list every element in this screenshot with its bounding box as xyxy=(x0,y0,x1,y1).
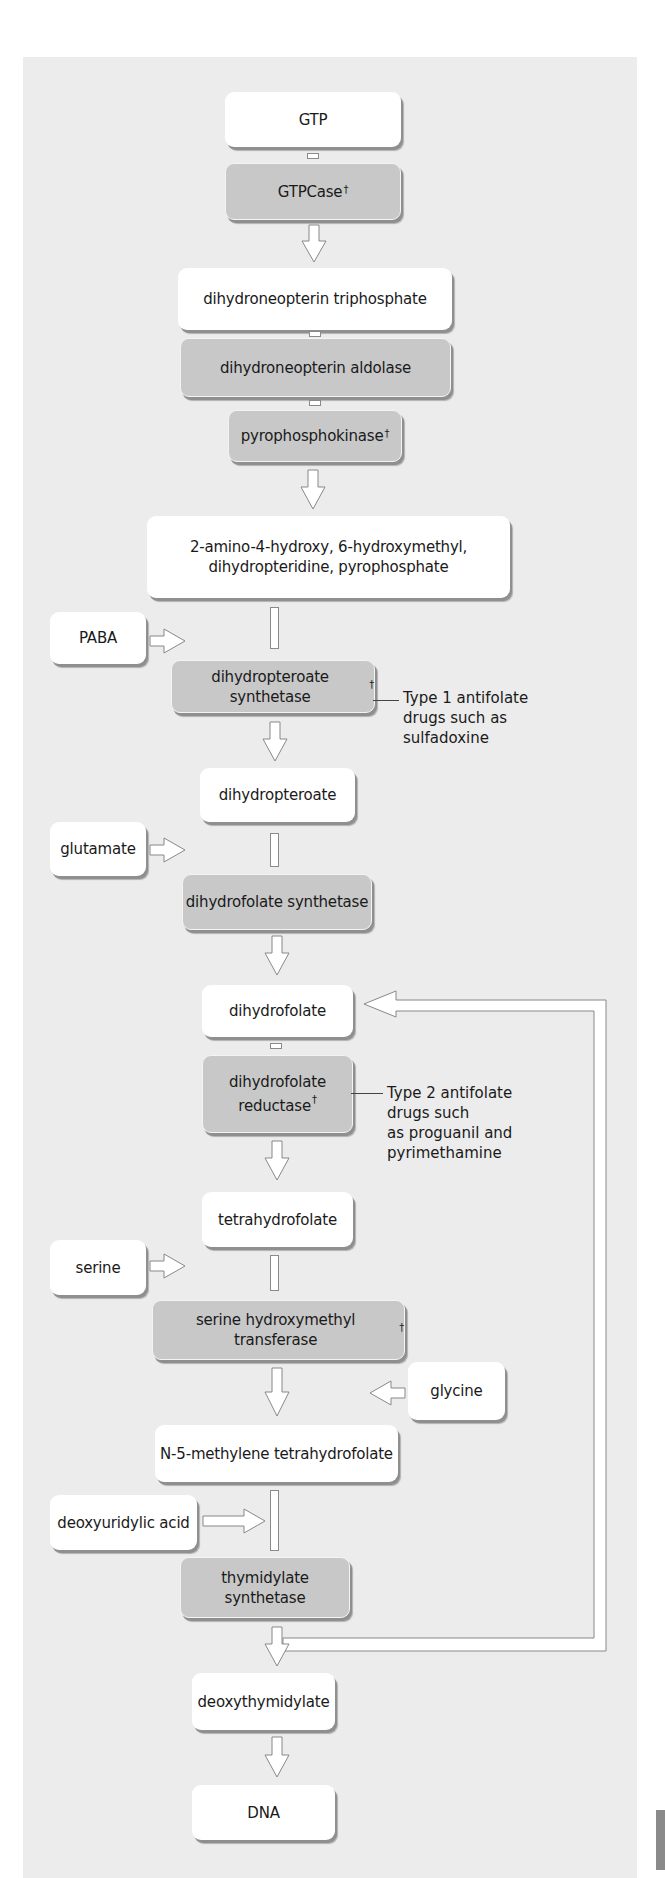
node-label: dihydroneopterin triphosphate xyxy=(203,289,427,309)
arrow-down-icon xyxy=(264,1737,290,1778)
node-label: deoxythymidylate xyxy=(198,1692,330,1712)
connector-bar xyxy=(270,1255,279,1291)
node-label-line1: 2-amino-4-hydroxy, 6-hydroxymethyl, xyxy=(190,537,467,557)
node-label: dihydroneopterin aldolase xyxy=(220,358,411,378)
input-label: glutamate xyxy=(60,839,135,859)
arrow-down-icon xyxy=(300,470,326,510)
arrow-down-icon xyxy=(264,1627,290,1667)
node-dna: DNA xyxy=(192,1785,335,1840)
dagger-mark: † xyxy=(385,424,390,444)
input-paba: PABA xyxy=(50,612,146,664)
node-gtpcase: GTPCase† xyxy=(225,163,401,220)
page-edge-tab xyxy=(656,1810,665,1870)
dagger-mark: † xyxy=(369,675,374,695)
arrow-right-icon xyxy=(150,628,186,654)
node-label-line2: dihydropteridine, pyrophosphate xyxy=(208,557,448,577)
input-deoxyuridylic-acid: deoxyuridylic acid xyxy=(50,1495,197,1550)
dagger-mark: † xyxy=(343,180,348,200)
input-glutamate: glutamate xyxy=(50,822,146,876)
connector-bar xyxy=(270,607,279,649)
arrow-down-icon xyxy=(262,722,288,762)
node-pyrophosphokinase: pyrophosphokinase† xyxy=(228,410,402,462)
node-dihydrofolate-synthetase: dihydrofolate synthetase xyxy=(182,874,372,930)
arrow-right-icon xyxy=(150,1253,186,1279)
node-gtpcase-label: GTPCase xyxy=(278,182,343,202)
input-label: deoxyuridylic acid xyxy=(57,1513,189,1533)
arrow-down-icon xyxy=(301,225,327,263)
input-label: serine xyxy=(76,1258,121,1278)
connector xyxy=(307,153,319,159)
arrow-right-icon xyxy=(150,837,186,863)
node-gtp-label: GTP xyxy=(299,110,328,130)
feedback-loop-arrow-icon xyxy=(280,990,610,1655)
node-gtp: GTP xyxy=(225,92,401,147)
node-label: DNA xyxy=(247,1803,279,1823)
annotation-pointer xyxy=(373,700,399,701)
annotation-line: sulfadoxine xyxy=(403,728,528,748)
node-hydroxymethyl-dihydropteridine-pyrophosphate: 2-amino-4-hydroxy, 6-hydroxymethyl, dihy… xyxy=(147,516,510,598)
annotation-line: Type 1 antifolate xyxy=(403,688,528,708)
node-label: dihydropteroate xyxy=(219,785,337,805)
node-label: dihydropteroate synthetase xyxy=(172,667,368,707)
node-label: pyrophosphokinase xyxy=(241,426,384,446)
node-deoxythymidylate: deoxythymidylate xyxy=(192,1673,335,1730)
connector-bar xyxy=(270,833,279,867)
input-label: PABA xyxy=(79,628,117,648)
node-dihydropteroate-synthetase: dihydropteroate synthetase† xyxy=(171,660,375,713)
node-dihydropteroate: dihydropteroate xyxy=(200,768,355,822)
input-serine: serine xyxy=(50,1240,146,1295)
node-label: dihydrofolate synthetase xyxy=(186,892,368,912)
node-dihydroneopterin-aldolase: dihydroneopterin aldolase xyxy=(180,338,451,397)
connector-bar xyxy=(270,1490,279,1551)
arrow-down-icon xyxy=(264,936,290,976)
node-dihydroneopterin-triphosphate: dihydroneopterin triphosphate xyxy=(178,268,452,330)
connector xyxy=(309,331,321,337)
annotation-type1-antifolate: Type 1 antifolate drugs such as sulfadox… xyxy=(403,688,528,748)
connector xyxy=(309,400,321,406)
arrow-right-icon xyxy=(203,1508,266,1534)
annotation-line: drugs such as xyxy=(403,708,528,728)
